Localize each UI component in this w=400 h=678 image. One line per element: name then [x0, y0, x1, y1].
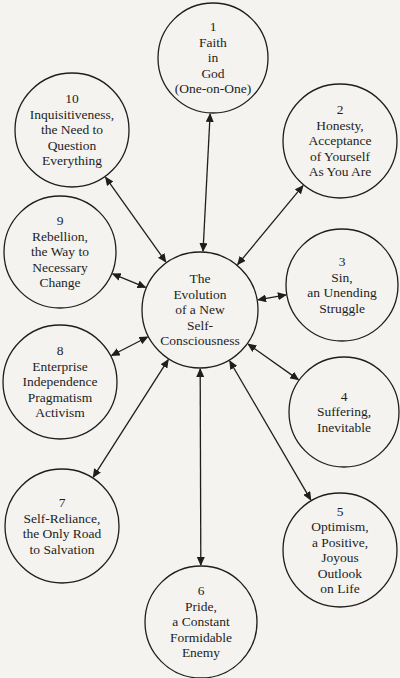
double-arrow-connector: [248, 344, 298, 380]
node-10: 10Inquisitiveness,the Need toQuestionEve…: [15, 73, 129, 187]
node-label-line: 5: [337, 504, 344, 520]
node-label-line: 1: [210, 19, 217, 35]
node-label-line: God: [201, 66, 224, 82]
double-arrow-connector: [238, 186, 303, 265]
node-label-line: Independence: [23, 374, 98, 390]
node-label-line: Self-Reliance,: [24, 511, 101, 527]
node-label-line: on Life: [320, 581, 359, 597]
node-label-line: Consciousness: [160, 333, 240, 349]
node-label-line: Everything: [42, 153, 102, 169]
node-label-line: 9: [57, 213, 64, 229]
node-label-line: Faith: [199, 35, 227, 51]
double-arrow-connector: [200, 369, 201, 565]
node-label-line: a Constant: [172, 614, 229, 630]
node-label-line: Evolution: [173, 287, 226, 303]
node-label-line: the Need to: [41, 122, 103, 138]
node-label-line: (One-on-One): [175, 81, 251, 97]
double-arrow-connector: [258, 295, 286, 300]
node-label-line: As You Are: [309, 164, 372, 180]
node-label-line: Optimism,: [311, 519, 368, 535]
node-label-line: Necessary: [32, 260, 87, 276]
node-label-line: a Positive,: [312, 535, 368, 551]
node-label-line: 2: [337, 102, 344, 118]
node-label-line: Sin,: [331, 270, 352, 286]
node-label-line: an Unending: [307, 285, 376, 301]
double-arrow-connector: [113, 274, 146, 288]
node-label-line: Formidable: [170, 630, 232, 646]
node-label-line: The: [190, 271, 211, 287]
node-label-line: 3: [339, 254, 346, 270]
node-label-line: Inevitable: [317, 420, 371, 436]
node-label-line: 8: [57, 343, 64, 359]
node-label-line: Outlook: [318, 566, 362, 582]
node-5: 5Optimism,a Positive,JoyousOutlookon Lif…: [283, 493, 397, 607]
node-label-line: to Salvation: [30, 542, 95, 558]
node-label-line: Enterprise: [32, 359, 87, 375]
node-label-line: of a New: [175, 302, 224, 318]
node-label-line: Activism: [35, 405, 85, 421]
node-label-line: 7: [59, 495, 66, 511]
node-7: 7Self-Reliance,the Only Roadto Salvation: [5, 469, 119, 583]
node-label-line: Enemy: [182, 645, 220, 661]
node-label-line: Rebellion,: [32, 229, 88, 245]
node-label-line: Acceptance: [309, 133, 372, 149]
node-label-line: Self-: [187, 318, 213, 334]
node-label-line: Pragmatism: [28, 390, 93, 406]
node-4: 4Suffering,Inevitable: [289, 357, 399, 467]
node-label-line: 6: [198, 583, 205, 599]
node-label-line: Change: [39, 275, 80, 291]
node-label-line: Struggle: [319, 301, 365, 317]
node-2: 2Honesty,Acceptanceof YourselfAs You Are: [283, 84, 397, 198]
double-arrow-connector: [112, 337, 148, 355]
node-9: 9Rebellion,the Way toNecessaryChange: [4, 196, 116, 308]
node-6: 6Pride,a ConstantFormidableEnemy: [145, 566, 257, 678]
node-label-line: 4: [341, 389, 348, 405]
node-label-line: Pride,: [185, 599, 217, 615]
node-label-line: in: [208, 50, 219, 66]
node-label-line: 10: [65, 91, 79, 107]
node-label-line: Honesty,: [316, 118, 364, 134]
node-label-line: the Only Road: [23, 526, 102, 542]
node-label-line: Question: [48, 138, 97, 154]
node-8: 8EnterpriseIndependencePragmatismActivis…: [3, 325, 117, 439]
node-label-line: the Way to: [31, 244, 89, 260]
node-label-line: Inquisitiveness,: [30, 107, 114, 123]
node-1: 1FaithinGod(One-on-One): [158, 3, 268, 113]
center-node: TheEvolutionof a NewSelf-Consciousness: [142, 252, 258, 368]
node-label-line: Joyous: [321, 550, 359, 566]
node-label-line: Suffering,: [317, 404, 371, 420]
double-arrow-connector: [203, 114, 210, 251]
node-label-line: of Yourself: [310, 149, 370, 165]
node-3: 3Sin,an UnendingStruggle: [286, 229, 398, 341]
